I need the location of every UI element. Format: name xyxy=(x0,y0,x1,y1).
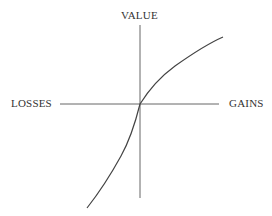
value-function-diagram xyxy=(0,0,272,216)
value-curve xyxy=(140,37,223,104)
value-curve-losses xyxy=(87,104,140,208)
